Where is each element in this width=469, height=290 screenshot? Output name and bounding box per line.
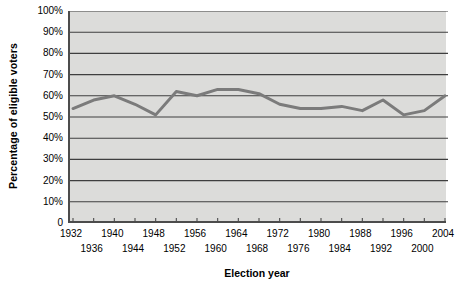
x-tick-label: 2000 bbox=[411, 243, 433, 254]
x-tick-label: 1968 bbox=[246, 243, 268, 254]
x-tick-label: 1948 bbox=[143, 228, 165, 239]
y-tick-label: 40% bbox=[43, 133, 63, 143]
x-tick-label: 1976 bbox=[287, 243, 309, 254]
y-tick-label: 90% bbox=[43, 27, 63, 37]
x-tick-label: 1964 bbox=[225, 228, 247, 239]
y-tick-label: 30% bbox=[43, 154, 63, 164]
x-tick-label: 1940 bbox=[101, 228, 123, 239]
x-tick-label: 1988 bbox=[349, 228, 371, 239]
x-tick-label: 1992 bbox=[370, 243, 392, 254]
x-tick-label: 2004 bbox=[432, 228, 454, 239]
x-tick-label: 1996 bbox=[391, 228, 413, 239]
y-axis-title-text: Percentage of eligible voters bbox=[7, 43, 19, 189]
voter-turnout-line-chart: Percentage of eligible voters 100%90%80%… bbox=[0, 0, 469, 290]
x-tick-label: 1952 bbox=[163, 243, 185, 254]
x-tick-label: 1944 bbox=[122, 243, 144, 254]
y-axis-tick-labels: 100%90%80%70%60%50%40%30%20%10%0 bbox=[26, 0, 66, 232]
x-tick-label: 1936 bbox=[81, 243, 103, 254]
y-tick-label: 60% bbox=[43, 91, 63, 101]
y-tick-label: 70% bbox=[43, 70, 63, 80]
y-tick-label: 20% bbox=[43, 176, 63, 186]
plot-area bbox=[68, 11, 446, 223]
x-axis-title: Election year bbox=[68, 267, 446, 279]
x-tick-label: 1980 bbox=[308, 228, 330, 239]
x-axis-tick-labels: 1932193619401944194819521956196019641968… bbox=[0, 226, 469, 266]
x-tick-label: 1972 bbox=[267, 228, 289, 239]
x-tick-label: 1932 bbox=[60, 228, 82, 239]
x-tick-label: 1960 bbox=[205, 243, 227, 254]
y-tick-label: 50% bbox=[43, 112, 63, 122]
data-line-voter-turnout bbox=[73, 89, 445, 114]
y-tick-label: 10% bbox=[43, 197, 63, 207]
y-tick-label: 100% bbox=[37, 6, 63, 16]
y-axis-title: Percentage of eligible voters bbox=[0, 0, 26, 232]
x-tick-label: 1984 bbox=[329, 243, 351, 254]
plot-svg bbox=[70, 11, 448, 223]
x-tick-label: 1956 bbox=[184, 228, 206, 239]
y-tick-label: 80% bbox=[43, 48, 63, 58]
